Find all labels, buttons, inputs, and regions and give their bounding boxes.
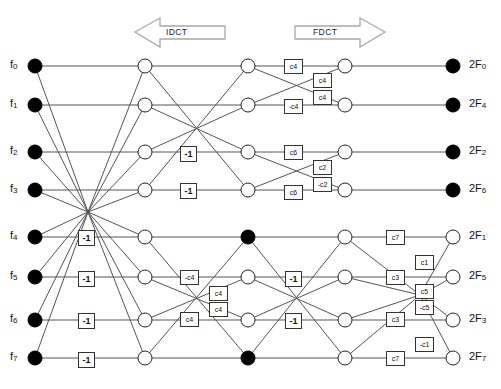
coef-box-c7-b: c7 xyxy=(386,351,405,366)
negate-box-3: -1 xyxy=(78,271,95,287)
output-node-2F3 xyxy=(446,313,460,327)
stage1-node-r7 xyxy=(138,351,152,365)
coef-box-c3-a: c3 xyxy=(386,270,405,285)
input-node-f6 xyxy=(28,313,42,327)
input-node-f3 xyxy=(28,183,42,197)
stage3-node-r3 xyxy=(338,183,352,197)
stage2-node-r4 xyxy=(241,230,255,244)
stage1-node-r5 xyxy=(138,270,152,284)
stage1-node-r2 xyxy=(138,145,152,159)
coef-box-c1: c1 xyxy=(415,255,434,270)
coef-box-c2-a: c2 xyxy=(313,160,332,175)
stage2-node-r0 xyxy=(241,59,255,73)
stage2-node-r6 xyxy=(241,313,255,327)
coef-box-c4-b: c4 xyxy=(313,73,332,88)
input-label-f0: f0 xyxy=(10,58,18,71)
coef-box-c3-b: c3 xyxy=(386,312,405,327)
input-node-f5 xyxy=(28,270,42,284)
stage1-node-r1 xyxy=(138,98,152,112)
coef-box-neg-c2: -c2 xyxy=(313,177,332,192)
output-label-2F5: 2F5 xyxy=(469,269,486,282)
stage3-node-r1 xyxy=(338,98,352,112)
stage3-node-r7 xyxy=(338,351,352,365)
input-label-f5: f5 xyxy=(10,269,18,282)
coef-box-neg-c4-b: -c4 xyxy=(180,270,199,285)
fdct-arrow xyxy=(295,18,385,47)
stage3-node-r0 xyxy=(338,59,352,73)
input-label-f7: f7 xyxy=(10,350,18,363)
output-label-2F3: 2F3 xyxy=(469,312,486,325)
coef-box-c5: c5 xyxy=(415,284,434,299)
stage2-node-r1 xyxy=(241,98,255,112)
stage2-node-r7 xyxy=(241,351,255,365)
input-label-f6: f6 xyxy=(10,312,18,325)
stage3-node-r2 xyxy=(338,145,352,159)
stage1-node-r4 xyxy=(138,230,152,244)
stage1-node-r0 xyxy=(138,59,152,73)
butterfly-diagram: IDCT FDCT f0 f1 f2 f3 f4 f5 f6 f7 2F0 2F… xyxy=(0,0,501,389)
stage1-node-r6 xyxy=(138,313,152,327)
negate-box-4: -1 xyxy=(78,313,95,329)
input-node-f1 xyxy=(28,98,42,112)
stage3-node-r6 xyxy=(338,313,352,327)
output-node-2F6 xyxy=(446,183,460,197)
idct-arrow-label: IDCT xyxy=(166,27,187,37)
coef-box-c4-f: c4 xyxy=(180,312,199,327)
stage2-node-r2 xyxy=(241,145,255,159)
input-node-f4 xyxy=(28,230,42,244)
coef-box-neg-c1: -c1 xyxy=(415,337,434,352)
output-label-2F4: 2F4 xyxy=(469,97,486,110)
coef-box-c6-b: c6 xyxy=(284,185,303,200)
negate-box-0: -1 xyxy=(180,146,197,162)
stage3-node-r4 xyxy=(338,230,352,244)
coef-box-neg-c5: -c5 xyxy=(415,300,434,315)
negate-box-1: -1 xyxy=(180,183,197,199)
coef-box-c4-c: c4 xyxy=(313,90,332,105)
output-label-2F7: 2F7 xyxy=(469,350,486,363)
coef-box-c4-a: c4 xyxy=(284,59,303,74)
output-label-2F1: 2F1 xyxy=(469,229,486,242)
output-label-2F2: 2F2 xyxy=(469,144,486,157)
output-label-2F0: 2F0 xyxy=(469,58,486,71)
output-node-2F1 xyxy=(446,230,460,244)
coef-box-c4-d: c4 xyxy=(209,286,228,301)
fdct-arrow-label: FDCT xyxy=(313,27,337,37)
output-label-2F6: 2F6 xyxy=(469,182,486,195)
input-node-f7 xyxy=(28,351,42,365)
coef-box-c7-a: c7 xyxy=(386,230,405,245)
output-node-2F4 xyxy=(446,98,460,112)
coef-box-c4-e: c4 xyxy=(209,302,228,317)
output-node-2F0 xyxy=(446,59,460,73)
coef-box-neg-c4-a: -c4 xyxy=(284,99,303,114)
output-node-2F2 xyxy=(446,145,460,159)
signal-flow-graph xyxy=(0,0,501,389)
stage1-node-r3 xyxy=(138,183,152,197)
negate-box-6: -1 xyxy=(285,271,302,287)
negate-box-7: -1 xyxy=(285,313,302,329)
negate-box-5: -1 xyxy=(78,352,95,368)
input-label-f3: f3 xyxy=(10,182,18,195)
stage2-node-r5 xyxy=(241,270,255,284)
input-label-f2: f2 xyxy=(10,144,18,157)
stage3-node-r5 xyxy=(338,270,352,284)
output-node-2F7 xyxy=(446,351,460,365)
stage2-node-r3 xyxy=(241,183,255,197)
input-label-f4: f4 xyxy=(10,229,18,242)
coef-box-c6-a: c6 xyxy=(284,145,303,160)
output-node-2F5 xyxy=(446,270,460,284)
input-node-f0 xyxy=(28,59,42,73)
input-label-f1: f1 xyxy=(10,97,18,110)
input-node-f2 xyxy=(28,145,42,159)
negate-box-2: -1 xyxy=(78,230,95,246)
